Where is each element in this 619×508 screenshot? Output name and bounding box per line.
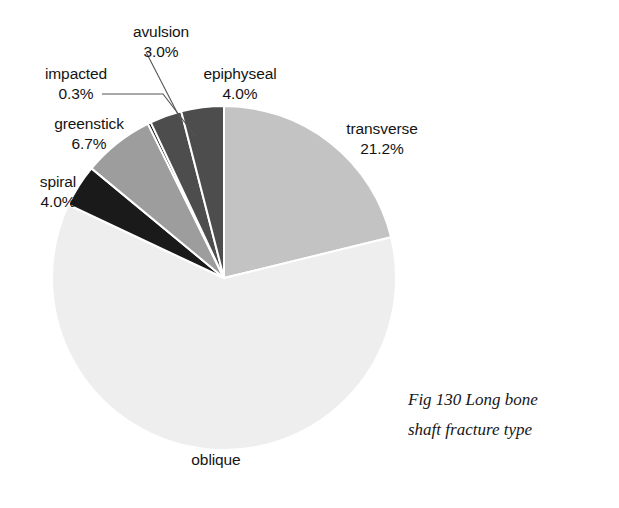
slice-label-greenstick: greenstick 6.7% bbox=[34, 114, 144, 154]
figure-caption-line-1: Fig 130 Long bone bbox=[408, 385, 608, 415]
slice-label-transverse-value: 21.2% bbox=[324, 139, 440, 159]
slice-label-transverse: transverse 21.2% bbox=[324, 119, 440, 159]
slice-label-transverse-name: transverse bbox=[324, 119, 440, 139]
slice-label-oblique-name: oblique bbox=[168, 450, 264, 470]
leader-line-avulsion bbox=[146, 52, 182, 122]
slice-label-spiral-name: spiral bbox=[22, 172, 94, 192]
figure-caption: Fig 130 Long bone shaft fracture type bbox=[408, 385, 608, 445]
slice-label-epiphyseal-name: epiphyseal bbox=[186, 64, 294, 84]
slice-label-impacted: impacted 0.3% bbox=[22, 64, 130, 104]
slice-label-spiral-value: 4.0% bbox=[22, 192, 94, 212]
pie-chart-figure: avulsion 3.0% impacted 0.3% epiphyseal 4… bbox=[0, 0, 619, 508]
slice-label-avulsion-name: avulsion bbox=[115, 22, 207, 42]
slice-label-impacted-name: impacted bbox=[22, 64, 130, 84]
slice-label-impacted-value: 0.3% bbox=[22, 84, 130, 104]
figure-caption-line-2: shaft fracture type bbox=[408, 415, 608, 445]
slice-label-greenstick-name: greenstick bbox=[34, 114, 144, 134]
slice-label-greenstick-value: 6.7% bbox=[34, 134, 144, 154]
slice-label-oblique: oblique bbox=[168, 450, 264, 470]
slice-label-avulsion: avulsion 3.0% bbox=[115, 22, 207, 62]
slice-label-avulsion-value: 3.0% bbox=[115, 42, 207, 62]
slice-label-spiral: spiral 4.0% bbox=[22, 172, 94, 212]
slice-label-epiphyseal-value: 4.0% bbox=[186, 84, 294, 104]
slice-label-epiphyseal: epiphyseal 4.0% bbox=[186, 64, 294, 104]
